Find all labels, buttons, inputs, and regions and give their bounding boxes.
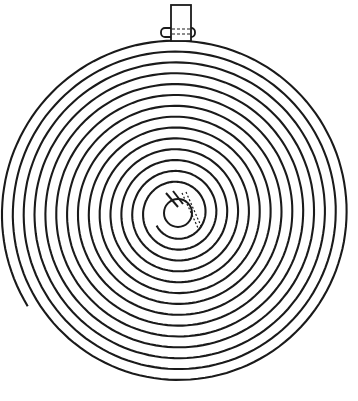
collet-hole bbox=[164, 199, 192, 227]
stud-block bbox=[171, 5, 191, 41]
spiral-spring-diagram bbox=[0, 0, 358, 401]
dotted-line-a bbox=[182, 193, 198, 228]
stud bbox=[161, 5, 195, 41]
dotted-line-b bbox=[186, 192, 201, 226]
spiral-coil bbox=[2, 41, 347, 380]
collet bbox=[164, 191, 201, 228]
